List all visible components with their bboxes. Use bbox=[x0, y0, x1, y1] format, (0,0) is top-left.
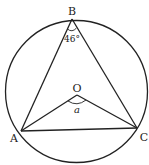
circle-theorem-diagram: B A C O 46° a bbox=[0, 0, 149, 165]
label-o: O bbox=[72, 82, 81, 95]
angle-label-o: a bbox=[74, 104, 80, 115]
segment-bc bbox=[72, 19, 137, 128]
segment-oc bbox=[77, 95, 137, 128]
segment-ac bbox=[21, 128, 137, 131]
label-c: C bbox=[140, 131, 148, 144]
label-a: A bbox=[9, 132, 19, 145]
label-b: B bbox=[68, 5, 76, 18]
angle-label-b: 46° bbox=[64, 34, 80, 44]
angle-arc-b bbox=[68, 28, 77, 31]
